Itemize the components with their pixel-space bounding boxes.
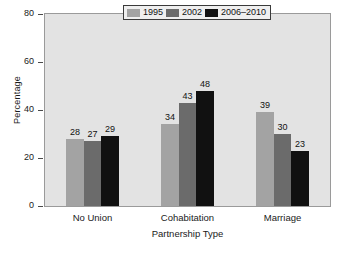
y-tick-label: 20 bbox=[12, 152, 34, 162]
legend-swatch-icon bbox=[166, 9, 179, 17]
y-tick-label: 60 bbox=[12, 56, 34, 66]
plot-inner: 282729344348393023 bbox=[45, 14, 330, 206]
legend-swatch-icon bbox=[127, 9, 140, 17]
y-tick-mark bbox=[38, 206, 43, 207]
chart-legend: 199520022006–2010 bbox=[123, 5, 271, 20]
x-tick-label: Cohabitation bbox=[138, 212, 238, 223]
bar-value-label: 23 bbox=[285, 139, 315, 149]
bar-value-label: 29 bbox=[95, 124, 125, 134]
x-tick-label: No Union bbox=[43, 212, 143, 223]
bar bbox=[179, 103, 197, 206]
y-tick-mark bbox=[38, 110, 43, 111]
bar-value-label: 39 bbox=[250, 100, 280, 110]
bar bbox=[161, 124, 179, 206]
bar bbox=[66, 139, 84, 206]
y-axis-title: Percentage bbox=[12, 55, 22, 145]
legend-entry: 2006–2010 bbox=[205, 8, 266, 17]
y-tick-mark bbox=[38, 62, 43, 63]
legend-label: 2006–2010 bbox=[221, 8, 266, 17]
x-axis-title: Partnership Type bbox=[44, 228, 331, 239]
y-tick-mark bbox=[38, 14, 43, 15]
legend-entry: 1995 bbox=[127, 8, 163, 17]
bar-value-label: 48 bbox=[190, 79, 220, 89]
legend-label: 1995 bbox=[143, 8, 163, 17]
bar bbox=[84, 141, 102, 206]
bar-chart-figure: Percentage 020406080 282729344348393023 … bbox=[0, 0, 349, 254]
bar bbox=[291, 151, 309, 206]
legend-entry: 2002 bbox=[166, 8, 202, 17]
y-tick-label: 0 bbox=[12, 200, 34, 210]
y-tick-label: 80 bbox=[12, 8, 34, 18]
plot-area: 282729344348393023 bbox=[44, 13, 331, 207]
x-tick-label: Marriage bbox=[233, 212, 333, 223]
legend-label: 2002 bbox=[182, 8, 202, 17]
bar-value-label: 30 bbox=[268, 122, 298, 132]
legend-swatch-icon bbox=[205, 9, 218, 17]
bar bbox=[196, 91, 214, 206]
y-tick-mark bbox=[38, 158, 43, 159]
bar bbox=[101, 136, 119, 206]
y-tick-label: 40 bbox=[12, 104, 34, 114]
